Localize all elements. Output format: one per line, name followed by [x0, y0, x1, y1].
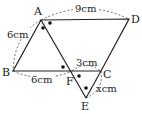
label-d: D	[131, 13, 140, 26]
measure-ab: 6cm	[7, 29, 29, 40]
label-b: B	[2, 66, 10, 79]
angle-dot-f1	[61, 65, 65, 69]
angle-dot-f2	[77, 74, 81, 78]
label-a: A	[33, 5, 43, 18]
angle-dot-a1	[41, 26, 45, 30]
parallelogram-abcd	[13, 19, 129, 71]
angle-dot-e	[84, 86, 88, 90]
label-c: C	[103, 68, 111, 81]
label-e: E	[81, 100, 89, 113]
measure-bf: 6cm	[31, 74, 53, 85]
angle-dot-a2	[48, 21, 52, 25]
measure-ad: 9cm	[75, 3, 97, 14]
label-f: F	[66, 75, 74, 88]
measure-fc: 3cm	[76, 57, 98, 68]
diagram: A D B C F E 9cm 6cm 6cm 3cm xcm	[0, 0, 142, 114]
measure-ce: xcm	[96, 83, 117, 94]
